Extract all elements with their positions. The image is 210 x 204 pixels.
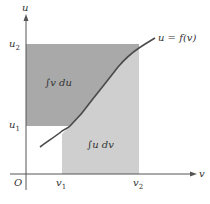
curve-label: u = f(v) bbox=[158, 32, 196, 43]
origin-label: O bbox=[14, 177, 22, 188]
u1-label: u1 bbox=[9, 119, 20, 133]
u2-label: u2 bbox=[9, 38, 20, 52]
integration-by-parts-diagram: u v O u2 u1 v1 v2 u = f(v) ∫v du ∫u dv bbox=[0, 0, 210, 204]
y-axis-label: u bbox=[22, 2, 28, 13]
v1-label: v1 bbox=[56, 177, 66, 191]
v2-label: v2 bbox=[133, 177, 143, 191]
region-v-du-label: ∫v du bbox=[45, 77, 72, 88]
region-u-dv-label: ∫u dv bbox=[87, 139, 114, 150]
x-axis-arrow-icon bbox=[190, 172, 197, 177]
y-axis-arrow-icon bbox=[24, 14, 29, 21]
x-axis-label: v bbox=[199, 168, 205, 179]
